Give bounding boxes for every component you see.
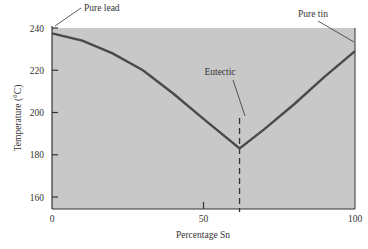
- x-axis-label: Percentage Sn: [176, 230, 230, 240]
- pure-lead-leader: [55, 8, 81, 26]
- x-tick-label: 50: [199, 214, 209, 224]
- phase-diagram-chart: 160180200220240 050100 Percentage Sn Tem…: [0, 0, 368, 249]
- eutectic-label: Eutectic: [204, 67, 235, 77]
- y-tick-label: 180: [30, 150, 45, 160]
- y-tick-label: 160: [30, 193, 45, 203]
- y-tick-label: 200: [30, 108, 45, 118]
- pure-tin-label: Pure tin: [298, 9, 328, 19]
- y-tick-label: 220: [30, 66, 45, 76]
- y-axis-label: Temperature (°C): [13, 85, 24, 152]
- x-tick-label: 100: [348, 214, 363, 224]
- y-tick-label: 240: [30, 24, 45, 34]
- x-tick-label: 0: [50, 214, 55, 224]
- pure-lead-label: Pure lead: [84, 3, 120, 13]
